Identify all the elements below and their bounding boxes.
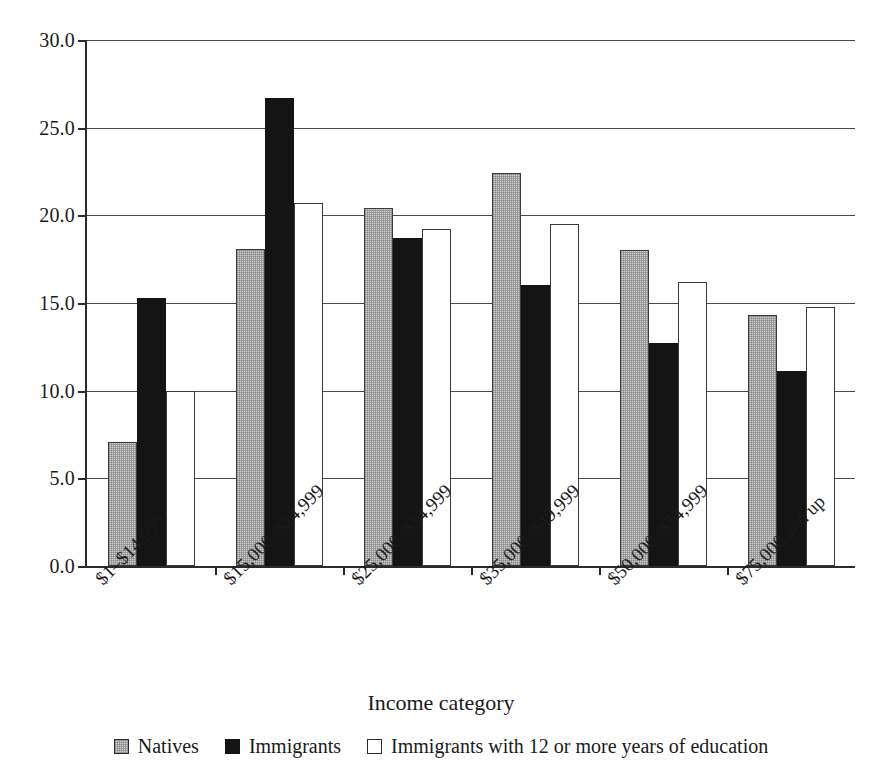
plot-area: 0.05.010.015.020.025.030.0 — [85, 40, 855, 568]
bar-immigrants-edu-5 — [806, 307, 835, 566]
x-tick-mark — [471, 566, 473, 575]
bar-immigrants-1 — [265, 98, 294, 566]
y-tick-mark — [78, 391, 87, 393]
y-tick-label: 0.0 — [49, 555, 75, 578]
y-tick-label: 10.0 — [39, 379, 75, 402]
bar-natives-3 — [492, 173, 521, 566]
bar-natives-4 — [620, 250, 649, 566]
x-tick-mark — [343, 566, 345, 575]
x-tick-mark — [215, 566, 217, 575]
x-tick-mark — [599, 566, 601, 575]
y-tick-label: 20.0 — [39, 204, 75, 227]
y-tick-label: 30.0 — [39, 29, 75, 52]
y-tick-mark — [78, 566, 87, 568]
y-tick-label: 15.0 — [39, 292, 75, 315]
x-axis-title: Income category — [0, 690, 882, 716]
y-tick-mark — [78, 215, 87, 217]
y-tick-mark — [78, 128, 87, 130]
legend-swatch-immigrants-edu-icon — [367, 739, 382, 754]
bar-immigrants-edu-0 — [166, 391, 195, 566]
legend-label: Natives — [138, 735, 199, 758]
legend-swatch-natives-icon — [114, 739, 129, 754]
y-tick-mark — [78, 303, 87, 305]
legend-entry-natives: Natives — [114, 735, 199, 758]
x-tick-mark — [727, 566, 729, 575]
legend-label: Immigrants — [249, 735, 341, 758]
legend-entry-immigrants-edu: Immigrants with 12 or more years of educ… — [367, 735, 768, 758]
legend-swatch-immigrants-icon — [225, 739, 240, 754]
y-tick-label: 25.0 — [39, 116, 75, 139]
bar-chart-figure: 0.05.010.015.020.025.030.0 $1–$14,999$15… — [0, 0, 882, 782]
y-tick-label: 5.0 — [49, 467, 75, 490]
y-tick-mark — [78, 40, 87, 42]
bars-layer — [87, 40, 855, 566]
bar-natives-2 — [364, 208, 393, 566]
y-tick-mark — [78, 478, 87, 480]
chart-legend: NativesImmigrantsImmigrants with 12 or m… — [0, 735, 882, 758]
bar-natives-1 — [236, 249, 265, 566]
bar-natives-5 — [748, 315, 777, 566]
legend-entry-immigrants: Immigrants — [225, 735, 341, 758]
legend-label: Immigrants with 12 or more years of educ… — [391, 735, 768, 758]
